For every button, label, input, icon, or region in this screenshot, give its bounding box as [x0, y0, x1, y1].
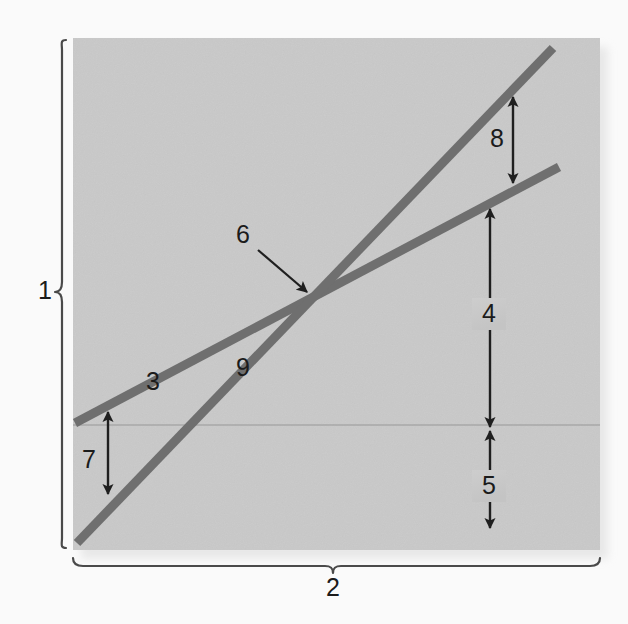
callout-label-1: 1	[38, 276, 52, 304]
callout-label-7: 7	[82, 445, 96, 473]
callout-label-6: 6	[236, 220, 250, 248]
callout-label-3: 3	[146, 367, 160, 395]
callout-label-9: 9	[236, 353, 250, 381]
brace-horizontal-2	[73, 558, 600, 573]
callout-label-5: 5	[482, 471, 496, 499]
diagram-svg: 1 2 3 9 6 7 8 4 5	[0, 0, 628, 624]
brace-vertical-1	[55, 40, 66, 548]
callout-label-2: 2	[326, 573, 340, 601]
plot-panel	[73, 38, 600, 550]
callout-label-8: 8	[490, 124, 504, 152]
callout-label-4: 4	[482, 299, 496, 327]
diagram-canvas: 1 2 3 9 6 7 8 4 5	[0, 0, 628, 624]
